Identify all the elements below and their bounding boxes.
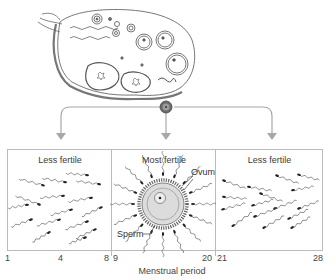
ruptured-follicle bbox=[158, 78, 176, 82]
corpus-luteum bbox=[86, 63, 119, 90]
sperm-group-right bbox=[221, 173, 320, 229]
sperm-icon bbox=[297, 173, 320, 181]
sperm-icon bbox=[297, 200, 319, 210]
panel-title-middle: Most fertile bbox=[112, 155, 216, 165]
panel-title-left: Less fertile bbox=[8, 155, 112, 165]
sperm-icon bbox=[222, 196, 247, 200]
tick-day-28: 28 bbox=[313, 253, 323, 263]
sperm-icon bbox=[259, 192, 283, 203]
follicle-small bbox=[127, 24, 135, 32]
sperm-icon bbox=[247, 185, 272, 192]
tick-day-1: 1 bbox=[5, 253, 10, 263]
sperm-icon bbox=[191, 203, 216, 205]
follicle-tiny bbox=[121, 57, 123, 59]
sperm-icon bbox=[291, 185, 314, 191]
sperm-icon bbox=[182, 223, 201, 242]
sperm-icon bbox=[290, 216, 311, 229]
panel-title-right: Less fertile bbox=[216, 155, 323, 165]
sperm-icon bbox=[19, 178, 46, 187]
ovary-illustration bbox=[38, 10, 195, 100]
sperm-icon bbox=[222, 179, 246, 190]
released-ovum bbox=[160, 101, 172, 113]
ovary-vessels bbox=[70, 27, 118, 40]
arrow-down-icon bbox=[161, 133, 171, 140]
ovum-large bbox=[139, 180, 187, 228]
sperm-icon bbox=[50, 208, 73, 216]
arrow-down-icon bbox=[267, 133, 277, 140]
sperm-icon bbox=[173, 229, 185, 253]
sperm-icon bbox=[110, 203, 135, 205]
tick-day-4: 4 bbox=[58, 253, 63, 263]
corpus-albicans bbox=[121, 72, 150, 92]
tick-day-20: 20 bbox=[202, 253, 212, 263]
sperm-icon bbox=[114, 214, 138, 226]
arrow-down-icon bbox=[56, 133, 66, 140]
sperm-icon bbox=[231, 211, 253, 227]
sperm-icon bbox=[125, 166, 144, 185]
follicle-tiny bbox=[141, 64, 143, 66]
sperm-icon bbox=[40, 195, 65, 199]
sperm-icon bbox=[275, 174, 299, 185]
follicle-medium bbox=[156, 31, 174, 49]
sperm-icon bbox=[221, 202, 246, 211]
sperm-icon bbox=[36, 218, 61, 227]
follicle-large bbox=[166, 53, 188, 75]
sperm-icon bbox=[287, 209, 309, 221]
follicle-small bbox=[115, 22, 120, 27]
sperm-icon bbox=[66, 172, 89, 176]
sperm-icon bbox=[251, 199, 274, 207]
follicle-tiny bbox=[109, 18, 112, 21]
sperm-group-left bbox=[8, 172, 103, 244]
ovum-label: Ovum bbox=[191, 167, 215, 177]
sperm-icon bbox=[8, 203, 29, 209]
sperm-icon bbox=[11, 218, 33, 228]
sperm-icon bbox=[42, 177, 67, 184]
diagram-canvas bbox=[0, 0, 336, 280]
sperm-icon bbox=[262, 215, 285, 229]
ovary-wall bbox=[54, 24, 182, 99]
tick-day-21: 21 bbox=[217, 253, 227, 263]
sperm-label: Sperm bbox=[117, 229, 144, 239]
tick-day-8: 8 bbox=[104, 253, 109, 263]
sperm-icon bbox=[114, 183, 138, 195]
sperm-icon bbox=[76, 180, 101, 186]
sperm-icon bbox=[81, 206, 103, 218]
sperm-icon bbox=[65, 220, 89, 231]
ovary-outline bbox=[58, 10, 195, 96]
sperm-icon bbox=[68, 196, 93, 203]
sperm-icon bbox=[188, 214, 212, 226]
tick-day-9: 9 bbox=[113, 253, 118, 263]
sperm-icon bbox=[32, 231, 51, 243]
fallopian-ligament bbox=[38, 13, 62, 32]
sperm-icon bbox=[69, 236, 88, 245]
arrowheads bbox=[56, 133, 277, 140]
axis-label: Menstrual period bbox=[0, 266, 336, 276]
sperm-icon bbox=[162, 232, 164, 257]
sperm-icon bbox=[253, 207, 277, 218]
sperm-icon bbox=[188, 183, 212, 195]
follicle-small bbox=[113, 30, 120, 37]
